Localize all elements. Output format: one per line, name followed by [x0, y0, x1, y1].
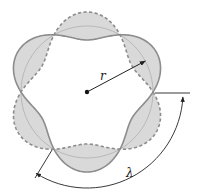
wave-lobe: [13, 35, 54, 92]
diagram-canvas: r λ: [0, 0, 197, 192]
wavelength-label: λ: [125, 166, 134, 180]
wavelength-arrow-arc: [36, 97, 183, 188]
standing-wave-diagram: r λ: [0, 0, 197, 192]
radius-arrow: [87, 61, 145, 92]
radius-label: r: [100, 69, 107, 83]
wave-lobe: [120, 92, 161, 149]
wave-lobe: [13, 92, 54, 149]
